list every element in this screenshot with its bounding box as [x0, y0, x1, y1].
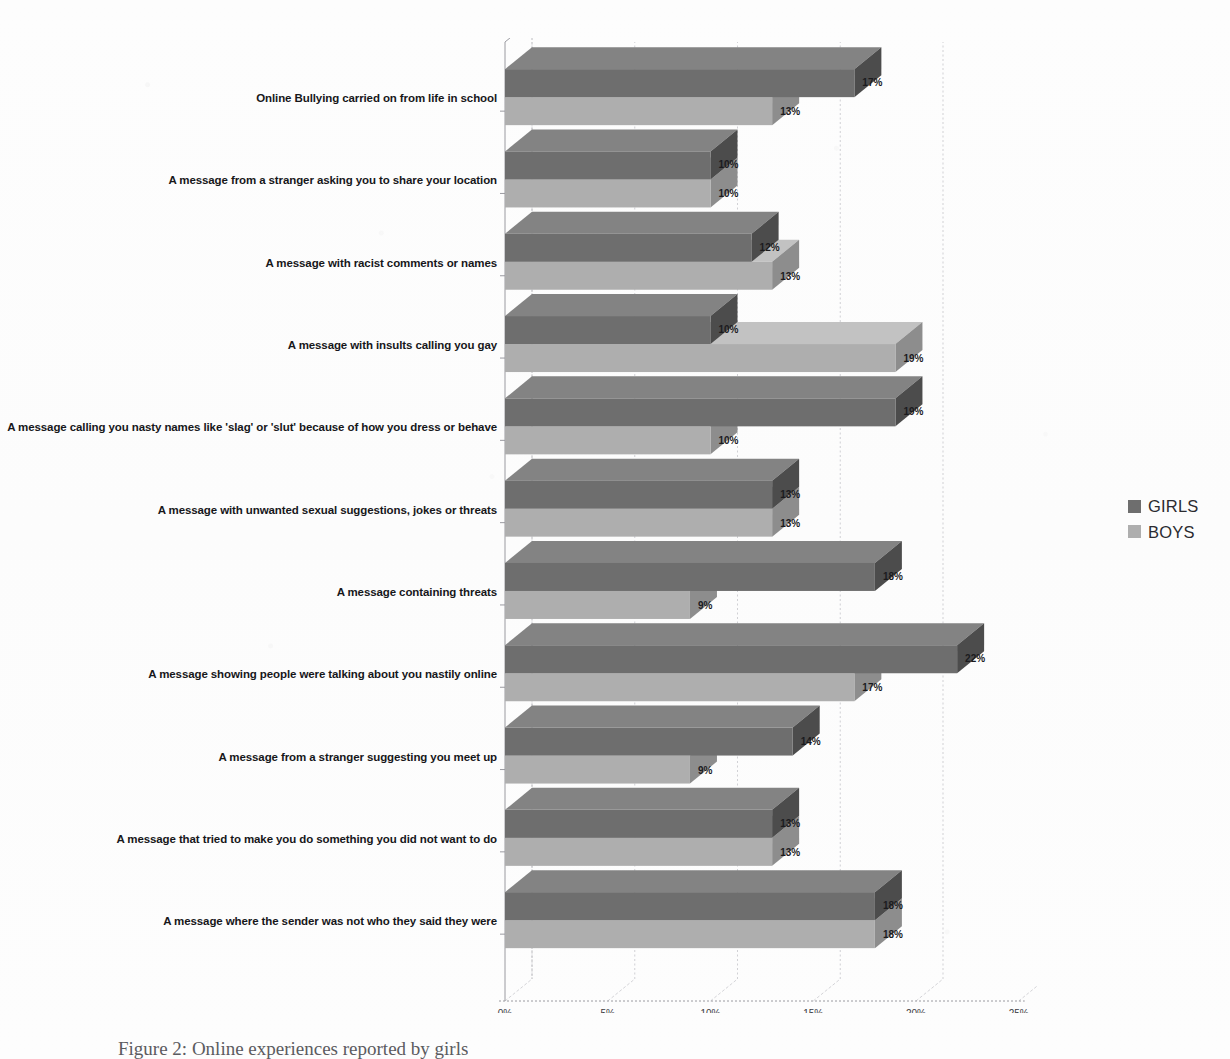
svg-text:14%: 14% [801, 736, 821, 747]
svg-text:13%: 13% [780, 518, 800, 529]
svg-text:9%: 9% [698, 765, 713, 776]
category-label: Online Bullying carried on from life in … [256, 93, 497, 105]
svg-text:22%: 22% [965, 653, 985, 664]
legend-label-girls: GIRLS [1148, 498, 1199, 515]
svg-text:17%: 17% [862, 77, 882, 88]
category-label: A message from a stranger suggesting you… [218, 752, 497, 764]
svg-text:13%: 13% [780, 489, 800, 500]
figure-caption: Figure 2: Online experiences reported by… [118, 1038, 468, 1059]
svg-text:13%: 13% [780, 847, 800, 858]
legend-label-boys: BOYS [1148, 524, 1195, 541]
svg-text:12%: 12% [760, 242, 780, 253]
svg-text:20%: 20% [906, 1008, 926, 1013]
svg-text:10%: 10% [719, 188, 739, 199]
svg-text:13%: 13% [780, 271, 800, 282]
legend-item-boys[interactable]: BOYS [1128, 524, 1228, 541]
plot-area: 17%13%10%10%12%13%10%19%19%10%13%13%18%9… [497, 38, 1037, 1013]
category-label: A message from a stranger asking you to … [168, 176, 497, 188]
category-label: A message with racist comments or names [265, 258, 497, 270]
svg-text:10%: 10% [719, 324, 739, 335]
svg-text:17%: 17% [862, 682, 882, 693]
svg-text:10%: 10% [719, 159, 739, 170]
category-label: A message with insults calling you gay [288, 340, 497, 352]
category-label: A message that tried to make you do some… [116, 834, 497, 846]
category-label: A message with unwanted sexual suggestio… [158, 505, 497, 517]
legend-swatch-girls [1128, 500, 1141, 513]
svg-text:18%: 18% [883, 900, 903, 911]
category-label: A message showing people were talking ab… [148, 670, 497, 682]
legend-item-girls[interactable]: GIRLS [1128, 498, 1228, 515]
svg-text:9%: 9% [698, 600, 713, 611]
svg-text:18%: 18% [883, 571, 903, 582]
svg-text:13%: 13% [780, 818, 800, 829]
plot-svg: 17%13%10%10%12%13%10%19%19%10%13%13%18%9… [497, 38, 1037, 1013]
svg-text:10%: 10% [719, 435, 739, 446]
svg-text:0%: 0% [498, 1008, 513, 1013]
legend-swatch-boys [1128, 525, 1141, 538]
svg-text:19%: 19% [903, 353, 923, 364]
category-label: A message where the sender was not who t… [163, 916, 497, 928]
svg-text:10%: 10% [700, 1008, 720, 1013]
svg-text:5%: 5% [601, 1008, 616, 1013]
svg-text:13%: 13% [780, 106, 800, 117]
chart-legend: GIRLS BOYS [1128, 498, 1228, 549]
svg-text:15%: 15% [803, 1008, 823, 1013]
svg-text:19%: 19% [903, 406, 923, 417]
svg-text:25%: 25% [1009, 1008, 1029, 1013]
svg-text:18%: 18% [883, 929, 903, 940]
category-label: A message calling you nasty names like '… [7, 423, 497, 435]
category-label: A message containing threats [337, 587, 497, 599]
category-axis-labels: Online Bullying carried on from life in … [0, 0, 497, 1059]
grouped-bar-chart-figure: Online Bullying carried on from life in … [0, 0, 1230, 1059]
